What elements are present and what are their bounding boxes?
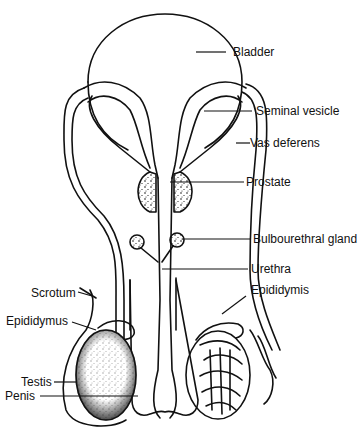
label-seminal-vesicle: Seminal vesicle — [256, 104, 339, 118]
seminal-vesicle-left — [84, 82, 158, 178]
label-epididymis: Epididymis — [251, 283, 309, 297]
urethra-left-wall — [154, 178, 160, 418]
label-epididymus: Epididymus — [6, 314, 68, 328]
label-testis: Testis — [21, 375, 52, 389]
testis-right — [186, 323, 276, 419]
label-vas-deferens: Vas deferens — [250, 136, 320, 150]
bulbourethral-glands — [130, 233, 184, 262]
label-bulbourethral-gland: Bulbourethral gland — [253, 232, 357, 246]
label-bladder: Bladder — [233, 45, 274, 59]
reproductive-anatomy-diagram — [0, 0, 362, 434]
label-urethra: Urethra — [251, 262, 291, 276]
label-scrotum: Scrotum — [31, 286, 76, 300]
leader-lines — [40, 52, 252, 396]
vas-deferens-right — [242, 84, 280, 350]
vas-deferens-left — [64, 88, 124, 350]
label-penis: Penis — [5, 389, 35, 403]
testis-left — [76, 330, 136, 420]
penis — [130, 278, 198, 415]
prostate — [138, 172, 192, 212]
seminal-vesicle-right — [172, 82, 246, 178]
label-prostate: Prostate — [246, 175, 291, 189]
